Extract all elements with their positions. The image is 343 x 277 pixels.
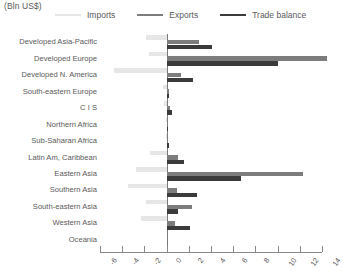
bar-imports — [136, 167, 167, 172]
legend-item-trade-balance: Trade balance — [220, 10, 306, 20]
axis-tick — [122, 246, 123, 252]
category-label: South-eastern Europe — [23, 87, 97, 96]
legend-item-imports: Imports — [55, 10, 115, 20]
axis-tick-label: 4 — [218, 256, 228, 265]
axis-tick — [100, 246, 101, 252]
bar-trade-balance — [167, 176, 241, 181]
bar-trade-balance — [167, 94, 169, 99]
legend-label-exports: Exports — [169, 10, 198, 20]
axis-tick-label: -6 — [108, 256, 119, 267]
bar-imports — [146, 200, 167, 205]
bar-trade-balance — [167, 78, 194, 83]
chart-legend: Imports Exports Trade balance — [55, 10, 306, 20]
axis-tick-label: 12 — [308, 256, 320, 268]
axis-tick — [255, 246, 256, 252]
bar-imports — [149, 52, 167, 57]
category-label: Developed Europe — [34, 54, 97, 63]
bar-imports — [141, 216, 167, 221]
bar-trade-balance — [167, 143, 169, 148]
category-label: Latin Am, Caribbean — [28, 153, 97, 162]
category-label: Developed N. America — [21, 70, 97, 79]
axis-tick-label: 10 — [286, 256, 298, 268]
axis-tick — [144, 246, 145, 252]
axis-tick — [189, 246, 190, 252]
bar-trade-balance — [167, 193, 197, 198]
axis-tick — [278, 246, 279, 252]
bar-imports — [114, 68, 166, 73]
axis-tick — [322, 246, 323, 252]
axis-tick-label: 8 — [262, 256, 272, 265]
axis-line — [100, 252, 322, 253]
category-axis: Developed Asia-PacificDeveloped EuropeDe… — [0, 34, 100, 248]
category-label: Western Asia — [52, 218, 97, 227]
category-label: Oceania — [69, 235, 97, 244]
axis-tick — [211, 246, 212, 252]
legend-item-exports: Exports — [137, 10, 198, 20]
legend-label-imports: Imports — [87, 10, 115, 20]
legend-swatch-imports — [55, 14, 81, 17]
legend-swatch-trade-balance — [220, 14, 246, 17]
bars-area — [100, 34, 322, 248]
axis-tick-label: 6 — [240, 256, 250, 265]
bar-trade-balance — [167, 209, 178, 214]
axis-tick-label: 14 — [331, 256, 343, 268]
axis-tick-label: 0 — [173, 256, 183, 265]
bar-trade-balance — [167, 110, 173, 115]
category-label: Eastern Asia — [54, 169, 97, 178]
bar-imports — [146, 35, 167, 40]
plot-area: Developed Asia-PacificDeveloped EuropeDe… — [0, 34, 322, 248]
axis-tick — [233, 246, 234, 252]
value-axis: -6-4-202468101214 — [100, 249, 322, 277]
legend-label-trade-balance: Trade balance — [252, 10, 306, 20]
category-label: Sub-Saharan Africa — [31, 136, 97, 145]
bar-trade-balance — [167, 226, 190, 231]
bar-imports — [128, 184, 167, 189]
category-label: C I S — [80, 103, 97, 112]
bar-trade-balance — [167, 61, 278, 66]
axis-tick — [167, 246, 168, 252]
legend-swatch-exports — [137, 14, 163, 17]
bar-trade-balance — [167, 160, 185, 165]
bar-trade-balance — [167, 45, 213, 50]
bar-trade-balance — [167, 127, 168, 132]
category-label: Developed Asia-Pacific — [19, 37, 97, 46]
category-label: Southern Asia — [50, 185, 97, 194]
axis-tick — [300, 246, 301, 252]
bar-imports — [150, 151, 167, 156]
axis-tick-label: -2 — [152, 256, 163, 267]
category-label: Northern Africa — [46, 120, 97, 129]
axis-tick-label: -4 — [130, 256, 141, 267]
axis-tick-label: 2 — [196, 256, 206, 265]
category-label: South-eastern Asia — [33, 202, 97, 211]
units-label: (Bln US$) — [4, 1, 42, 11]
